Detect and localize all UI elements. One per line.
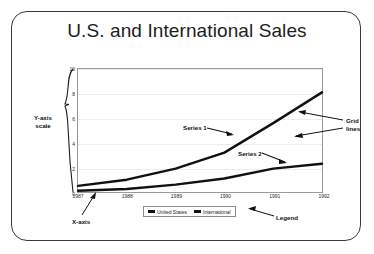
y-axis-tick-label: 10 (69, 66, 75, 72)
chart-legend: United StatesInternational (143, 206, 236, 217)
xaxis-annotation-label: X-axis (72, 218, 90, 226)
y-axis-tick-label: 6 (72, 116, 75, 122)
yaxis-annotation-line1: Y-axis (22, 114, 64, 122)
legend-swatch-icon (148, 210, 155, 212)
y-axis-brace-icon (65, 69, 73, 192)
x-axis-tick-label: 1991 (269, 193, 280, 199)
x-axis-tick-label: 1990 (220, 193, 231, 199)
x-axis-tick-label: 1987 (72, 193, 83, 199)
gridlines-annotation-line1: Grid (346, 117, 360, 125)
yaxis-annotation-line2: scale (22, 122, 64, 130)
legend-pointer-arrow (248, 206, 274, 216)
xaxis-pointer-arrow (82, 192, 96, 215)
x-axis-tick-label: 1989 (171, 193, 182, 199)
series1-annotation-label: Series 1 (183, 124, 207, 132)
legend-item[interactable]: United States (148, 209, 187, 215)
legend-annotation-label: Legend (276, 214, 298, 222)
legend-item-label: United States (157, 209, 187, 215)
y-axis-tick-label: 2 (72, 166, 75, 172)
y-axis-tick-label: 8 (72, 91, 75, 97)
legend-item[interactable]: International (194, 209, 231, 215)
slide-canvas: U.S. and International Sales 0246810 198… (0, 0, 374, 254)
gridlines-annotation-line2: lines (346, 125, 360, 133)
yaxis-annotation-label: Y-axis scale (22, 114, 64, 130)
legend-item-label: International (203, 209, 231, 215)
gridlines-annotation-label: Grid lines (346, 117, 360, 133)
series-line (78, 164, 322, 191)
legend-swatch-icon (194, 210, 201, 212)
x-axis-tick-label: 1992 (318, 193, 329, 199)
y-axis-tick-label: 4 (72, 141, 75, 147)
series-line (78, 92, 322, 185)
series2-annotation-label: Series 2 (238, 150, 262, 158)
x-axis-tick-label: 1988 (122, 193, 133, 199)
chart-container: 0246810 198719881989199019911992 (0, 0, 374, 254)
